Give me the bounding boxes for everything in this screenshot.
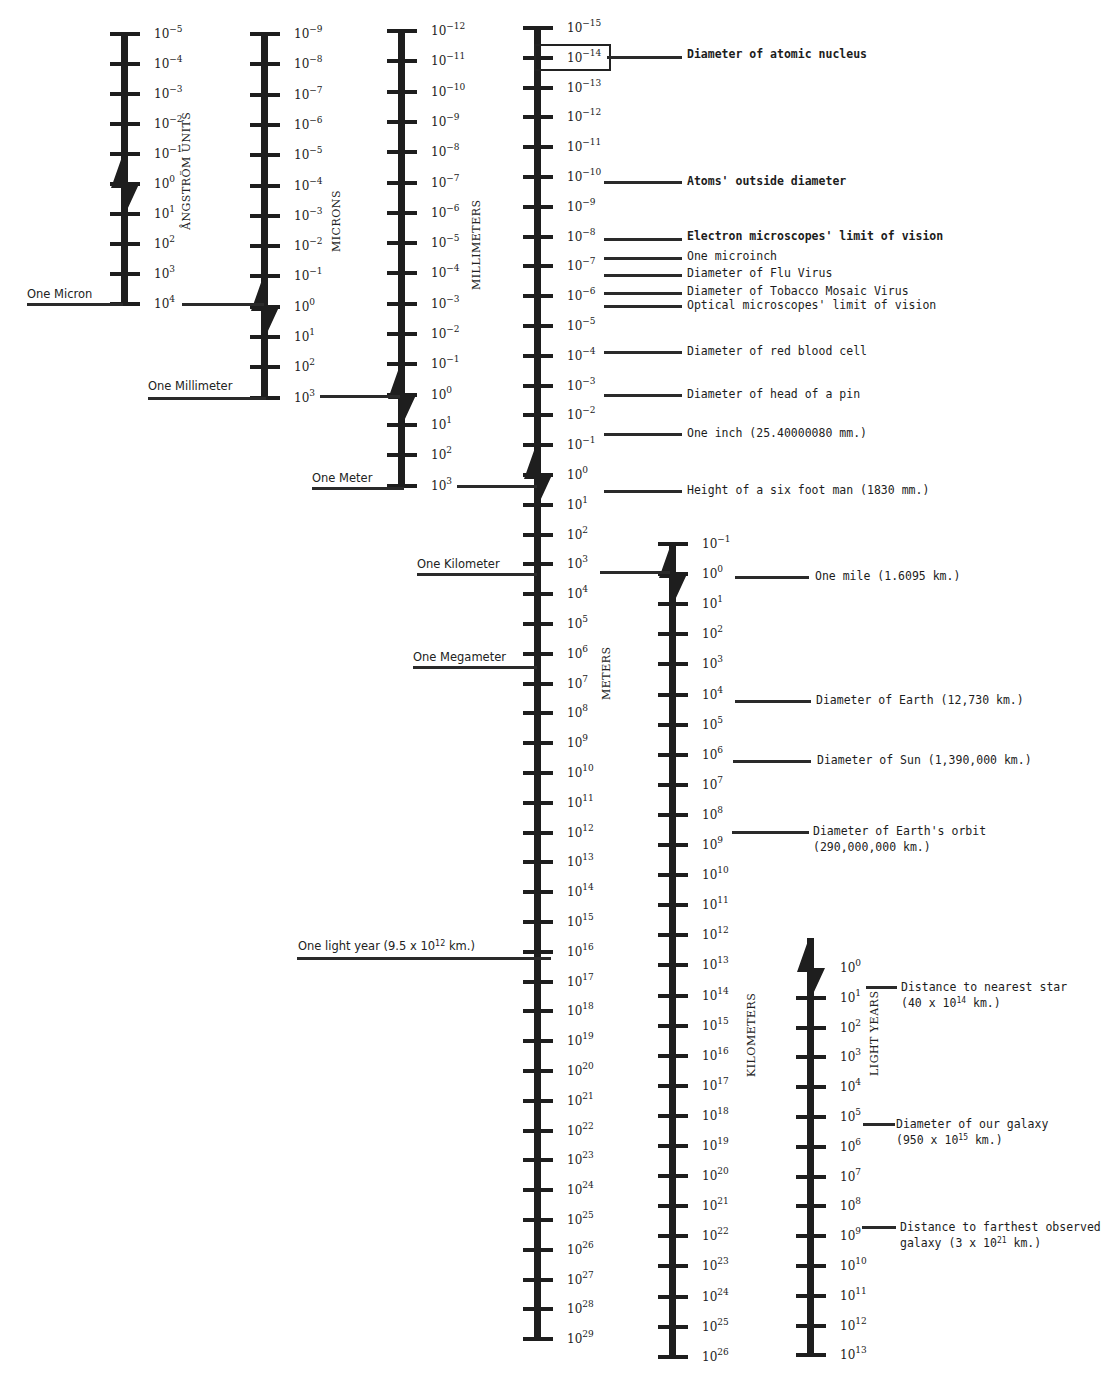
tick-label: 10−8 [567, 231, 596, 243]
tick-label: 106 [567, 648, 588, 660]
length-scale-diagram: 10−510−410−310−210−110010110210310410−91… [0, 0, 1111, 1387]
tick-label: 101 [702, 598, 723, 610]
tick-mark [387, 211, 417, 215]
tick-label: 103 [431, 480, 452, 492]
tick-label: 10−1 [154, 148, 183, 160]
tick-mark [110, 92, 140, 96]
tick-mark [658, 1295, 688, 1299]
man-line [604, 490, 682, 493]
tick-label: 10−15 [567, 22, 601, 34]
tick-label: 104 [702, 689, 723, 701]
annotation-atoms-diameter: Atoms' outside diameter [687, 173, 846, 189]
tick-label: 1010 [840, 1260, 867, 1272]
tick-mark [523, 354, 553, 358]
one-light-year-label: One light year (9.5 x 1012 km.) [298, 939, 475, 953]
annotation-earth-diameter: Diameter of Earth (12,730 km.) [816, 692, 1024, 708]
one-millimeter-label: One Millimeter [148, 379, 232, 393]
scale-break-icon [795, 936, 829, 1000]
tick-mark [387, 332, 417, 336]
tick-label: 101 [294, 331, 315, 343]
tick-label: 10−1 [431, 358, 460, 370]
tick-label: 1013 [840, 1349, 867, 1361]
annotation-atomic-nucleus: Diameter of atomic nucleus [687, 46, 867, 62]
tick-label: 106 [840, 1141, 861, 1153]
tick-label: 1025 [702, 1321, 729, 1333]
tick-label: 1020 [567, 1065, 594, 1077]
tick-label: 108 [567, 707, 588, 719]
tick-mark [523, 86, 553, 90]
tick-mark [523, 652, 553, 656]
tick-mark [523, 1099, 553, 1103]
annotation-our-galaxy: Diameter of our galaxy(950 x 1015 km.) [896, 1116, 1048, 1148]
rbc-line [604, 351, 682, 354]
tick-label: 103 [154, 268, 175, 280]
tick-label: 1017 [567, 976, 594, 988]
one-megameter-label: One Megameter [413, 650, 506, 664]
tick-mark [523, 1278, 553, 1282]
tick-label: 105 [702, 719, 723, 731]
tick-label: 109 [840, 1230, 861, 1242]
tick-label: 10−5 [567, 320, 596, 332]
tick-label: 1021 [567, 1095, 594, 1107]
tick-label: 1017 [702, 1080, 729, 1092]
tick-label: 102 [702, 628, 723, 640]
tick-label: 1015 [702, 1020, 729, 1032]
tick-mark [250, 244, 280, 248]
tick-mark [658, 1325, 688, 1329]
orbit-line [732, 831, 809, 834]
tick-mark [658, 1114, 688, 1118]
tick-label: 101 [154, 208, 175, 220]
annotation-one-mile: One mile (1.6095 km.) [815, 568, 960, 584]
tick-label: 10−3 [567, 380, 596, 392]
tick-mark [387, 150, 417, 154]
tick-mark [523, 175, 553, 179]
tick-label: 1026 [567, 1244, 594, 1256]
annotation-nearest-star: Distance to nearest star(40 x 1014 km.) [901, 979, 1067, 1011]
one-meter-line-right [457, 485, 537, 488]
tick-mark [110, 242, 140, 246]
tick-mark [658, 1174, 688, 1178]
one-kilometer-label: One Kilometer [417, 557, 500, 571]
tick-mark [796, 1026, 826, 1030]
tick-mark [523, 145, 553, 149]
annotation-one-inch: One inch (25.40000080 mm.) [687, 425, 867, 441]
tick-mark [523, 1129, 553, 1133]
tick-mark [523, 831, 553, 835]
tick-label: 1010 [567, 767, 594, 779]
one-kilometer-line-left [417, 573, 537, 576]
tick-label: 102 [294, 361, 315, 373]
tick-mark [523, 920, 553, 924]
tick-mark [110, 32, 140, 36]
tick-label: 102 [567, 529, 588, 541]
tick-label: 100 [840, 962, 861, 974]
scale-break-icon [657, 542, 691, 606]
tick-mark [523, 26, 553, 30]
tick-label: 104 [840, 1081, 861, 1093]
tick-label: 105 [840, 1111, 861, 1123]
microinch-line [604, 257, 682, 260]
tick-label: 10−6 [567, 290, 596, 302]
tick-mark [523, 1337, 553, 1341]
tick-mark [110, 122, 140, 126]
tick-mark [523, 741, 553, 745]
tick-label: 1014 [567, 886, 594, 898]
tick-mark [250, 184, 280, 188]
tick-label: 100 [702, 568, 723, 580]
tick-label: 1012 [840, 1320, 867, 1332]
tick-label: 106 [702, 749, 723, 761]
tick-label: 1012 [567, 827, 594, 839]
axis-title-meters: METERS [600, 647, 613, 700]
tick-mark [796, 1353, 826, 1357]
tick-mark [658, 693, 688, 697]
tick-label: 1020 [702, 1170, 729, 1182]
one-meter-label: One Meter [312, 471, 372, 485]
tick-mark [387, 181, 417, 185]
tick-label: 1013 [567, 856, 594, 868]
tick-mark [523, 562, 553, 566]
tick-label: 10−7 [431, 177, 460, 189]
axis-title-angstrom: ÅNGSTRÖM UNITS [180, 112, 193, 230]
one-micron-line-left [27, 303, 123, 306]
tick-label: 1011 [840, 1290, 867, 1302]
one-micron-label: One Micron [27, 287, 92, 301]
tick-mark [658, 1204, 688, 1208]
